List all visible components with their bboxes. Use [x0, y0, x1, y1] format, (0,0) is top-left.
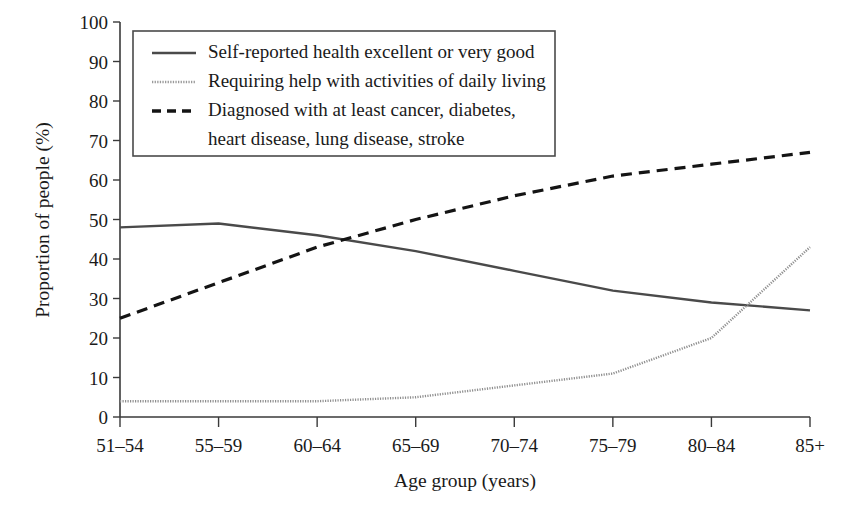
legend-label-3: Diagnosed with at least cancer, diabetes… — [208, 99, 516, 120]
y-tick-label: 100 — [80, 12, 109, 33]
y-tick-label: 70 — [89, 131, 108, 152]
x-tick-label: 85+ — [795, 435, 825, 456]
chart-legend: Self-reported health excellent or very g… — [133, 31, 555, 156]
x-tick-label: 60–64 — [293, 435, 341, 456]
legend-label-2: Requiring help with activities of daily … — [208, 70, 546, 91]
y-tick-label: 40 — [89, 249, 108, 270]
y-tick-label: 60 — [89, 170, 108, 191]
y-tick-label: 30 — [89, 289, 108, 310]
y-axis: 0102030405060708090100 Proportion of peo… — [32, 12, 120, 428]
y-tick-label: 0 — [99, 407, 109, 428]
y-tick-label: 50 — [89, 210, 108, 231]
x-tick-label: 51–54 — [96, 435, 144, 456]
x-axis: 51–5455–5960–6465–6970–7475–7980–8485+ A… — [96, 417, 825, 492]
legend-label-3-cont: heart disease, lung disease, stroke — [208, 128, 464, 149]
chart-figure: 0102030405060708090100 Proportion of peo… — [0, 0, 846, 514]
y-tick-label: 90 — [89, 52, 108, 73]
x-tick-label: 75–79 — [589, 435, 637, 456]
x-axis-ticks: 51–5455–5960–6465–6970–7475–7980–8485+ — [96, 417, 825, 456]
data-series-group — [120, 152, 810, 401]
x-axis-title: Age group (years) — [394, 470, 536, 492]
y-tick-label: 20 — [89, 328, 108, 349]
y-tick-label: 80 — [89, 91, 108, 112]
y-tick-label: 10 — [89, 368, 108, 389]
x-tick-label: 70–74 — [491, 435, 539, 456]
line-chart: 0102030405060708090100 Proportion of peo… — [0, 0, 846, 514]
x-tick-label: 80–84 — [688, 435, 736, 456]
y-axis-ticks: 0102030405060708090100 — [80, 12, 121, 428]
legend-label-1: Self-reported health excellent or very g… — [208, 41, 535, 62]
x-tick-label: 65–69 — [392, 435, 440, 456]
series-line-1 — [120, 223, 810, 310]
x-tick-label: 55–59 — [195, 435, 243, 456]
series-line-3 — [120, 152, 810, 318]
series-line-2 — [120, 247, 810, 401]
y-axis-title: Proportion of people (%) — [32, 122, 54, 318]
